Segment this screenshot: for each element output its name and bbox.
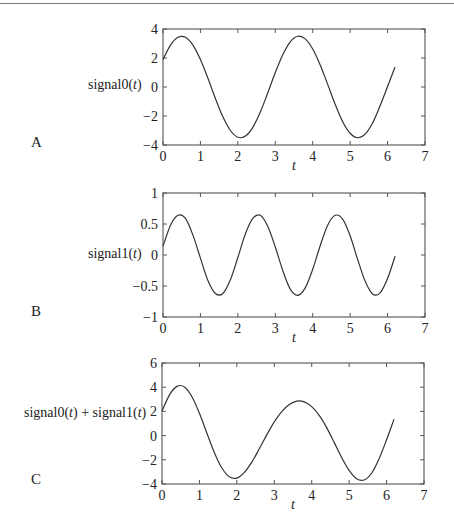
axes-frame bbox=[163, 29, 425, 145]
x-tick-label: 1 bbox=[196, 488, 203, 503]
y-tick-label: −4 bbox=[142, 477, 157, 492]
x-tick-label: 6 bbox=[384, 321, 391, 336]
x-tick-label: 4 bbox=[309, 321, 316, 336]
x-axis-label: t bbox=[292, 158, 297, 173]
y-tick-label: −2 bbox=[142, 453, 157, 468]
x-tick-label: 7 bbox=[422, 149, 429, 164]
x-tick-label: 6 bbox=[384, 149, 391, 164]
y-tick-label: 1 bbox=[151, 186, 158, 201]
y-tick-label: −4 bbox=[143, 138, 158, 153]
plot-panel-c: 01234567−4−20246t bbox=[142, 356, 427, 512]
y-tick-label: 4 bbox=[151, 22, 158, 37]
x-tick-label: 4 bbox=[309, 149, 316, 164]
y-tick-label: 0 bbox=[151, 80, 158, 95]
plots-canvas: 01234567−4−2024t 01234567−1−0.500.51t 01… bbox=[0, 0, 454, 525]
x-tick-label: 7 bbox=[421, 488, 428, 503]
x-tick-label: 0 bbox=[159, 488, 166, 503]
y-tick-label: 6 bbox=[150, 356, 157, 371]
x-tick-label: 2 bbox=[233, 488, 240, 503]
plot-panel-b: 01234567−1−0.500.51t bbox=[133, 186, 429, 345]
x-tick-label: 6 bbox=[383, 488, 390, 503]
x-tick-label: 5 bbox=[347, 321, 354, 336]
y-tick-label: 4 bbox=[150, 380, 157, 395]
plot-panel-a: 01234567−4−2024t bbox=[143, 22, 428, 173]
x-tick-label: 2 bbox=[234, 321, 241, 336]
y-tick-label: 0 bbox=[150, 429, 157, 444]
y-tick-label: −0.5 bbox=[133, 279, 158, 294]
x-tick-label: 0 bbox=[160, 149, 167, 164]
y-tick-label: −1 bbox=[143, 310, 158, 325]
y-tick-label: 2 bbox=[151, 51, 158, 66]
x-tick-label: 0 bbox=[160, 321, 167, 336]
x-tick-label: 3 bbox=[272, 321, 279, 336]
signal-curve bbox=[162, 385, 394, 480]
x-tick-label: 5 bbox=[347, 149, 354, 164]
signal-curve bbox=[163, 36, 395, 138]
x-tick-label: 5 bbox=[346, 488, 353, 503]
x-tick-label: 3 bbox=[271, 488, 278, 503]
signal-curve bbox=[163, 215, 395, 296]
x-tick-label: 7 bbox=[422, 321, 429, 336]
y-tick-label: 0.5 bbox=[141, 217, 159, 232]
x-tick-label: 4 bbox=[308, 488, 315, 503]
axes-frame bbox=[162, 363, 424, 484]
x-tick-label: 2 bbox=[234, 149, 241, 164]
y-tick-label: −2 bbox=[143, 109, 158, 124]
x-axis-label: t bbox=[291, 497, 296, 512]
x-axis-label: t bbox=[292, 330, 297, 345]
x-tick-label: 1 bbox=[197, 321, 204, 336]
y-tick-label: 2 bbox=[150, 404, 157, 419]
x-tick-label: 1 bbox=[197, 149, 204, 164]
y-tick-label: 0 bbox=[151, 248, 158, 263]
x-tick-label: 3 bbox=[272, 149, 279, 164]
axes-frame bbox=[163, 193, 425, 317]
